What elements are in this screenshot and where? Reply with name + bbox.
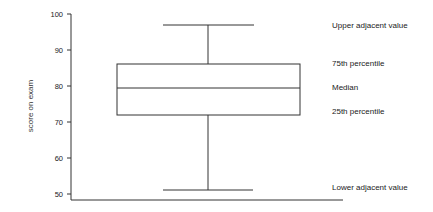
tick-label-90: 90 <box>55 46 63 55</box>
y-axis-tick-labels: 100 90 80 70 60 50 <box>50 10 63 199</box>
tick-label-70: 70 <box>55 118 63 127</box>
y-axis-ticks <box>67 14 71 194</box>
label-75th-percentile: 75th percentile <box>332 59 385 68</box>
tick-label-50: 50 <box>55 190 63 199</box>
box-plot <box>117 25 300 190</box>
label-lower-adjacent: Lower adjacent value <box>332 183 408 192</box>
iqr-box <box>117 64 300 115</box>
annotations: Upper adjacent value 75th percentile Med… <box>332 21 408 192</box>
box-plot-chart: score on exam 100 90 80 70 60 50 Upper a… <box>0 0 433 212</box>
tick-label-80: 80 <box>55 82 63 91</box>
tick-label-60: 60 <box>55 154 63 163</box>
y-axis-label: score on exam <box>26 79 35 132</box>
label-upper-adjacent: Upper adjacent value <box>332 21 408 30</box>
tick-label-100: 100 <box>50 10 63 19</box>
label-median: Median <box>332 83 358 92</box>
label-25th-percentile: 25th percentile <box>332 107 385 116</box>
